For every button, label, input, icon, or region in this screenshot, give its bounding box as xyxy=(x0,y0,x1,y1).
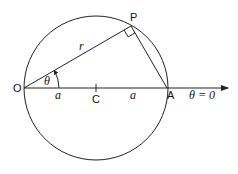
diagram-canvas: O P C A r θ a a θ = 0 xyxy=(0,0,238,174)
label-A: A xyxy=(167,89,175,101)
segment-OP xyxy=(24,26,131,88)
label-C: C xyxy=(92,93,100,105)
label-a-left: a xyxy=(55,88,61,102)
theta-arc xyxy=(54,71,59,89)
label-P: P xyxy=(130,11,137,23)
label-r: r xyxy=(79,39,84,53)
label-axis: θ = 0 xyxy=(189,88,215,102)
label-theta: θ xyxy=(44,74,50,88)
label-a-right: a xyxy=(130,88,136,102)
segment-PA xyxy=(131,26,167,88)
label-O: O xyxy=(13,82,22,94)
